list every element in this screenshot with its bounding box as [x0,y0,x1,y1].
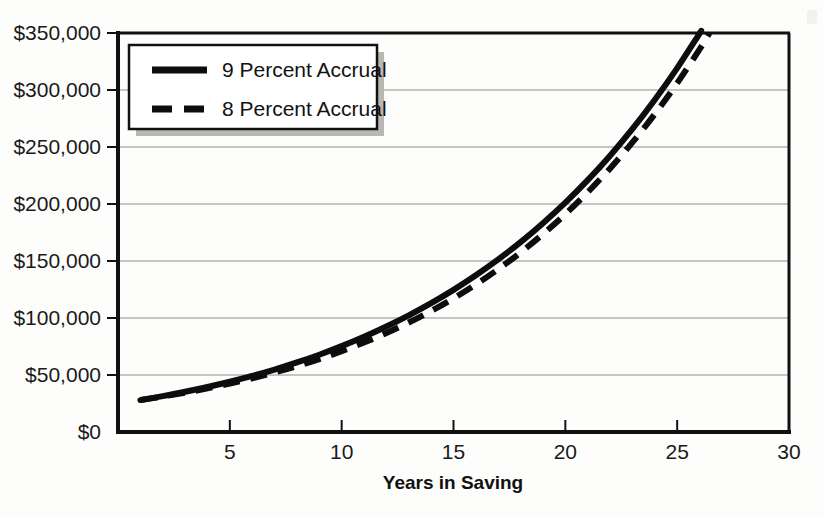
y-tick-label: $50,000 [25,363,101,386]
y-tick-label: $300,000 [13,78,101,101]
y-axis-tick-labels: $0$50,000$100,000$150,000$200,000$250,00… [13,21,101,443]
x-tick-label: 15 [442,440,465,463]
legend-label-8-percent-accrual: 8 Percent Accrual [222,97,387,120]
x-tick-label: 10 [330,440,353,463]
x-axis-tick-labels: 51015202530 [224,440,801,463]
y-tick-label: $200,000 [13,192,101,215]
chart-legend: 9 Percent Accrual 8 Percent Accrual [129,45,387,136]
savings-growth-line-chart: $0$50,000$100,000$150,000$200,000$250,00… [0,0,823,517]
y-tick-label: $350,000 [13,21,101,44]
y-tick-label: $100,000 [13,306,101,329]
x-tick-label: 5 [224,440,236,463]
y-tick-label: $0 [78,420,101,443]
x-tick-label: 20 [554,440,577,463]
x-axis-title: Years in Saving [383,472,523,493]
y-tick-label: $150,000 [13,249,101,272]
x-tick-label: 30 [777,440,800,463]
x-tick-label: 25 [665,440,688,463]
chart-page: $0$50,000$100,000$150,000$200,000$250,00… [0,0,823,517]
y-tick-label: $250,000 [13,135,101,158]
legend-label-9-percent-accrual: 9 Percent Accrual [222,58,387,81]
